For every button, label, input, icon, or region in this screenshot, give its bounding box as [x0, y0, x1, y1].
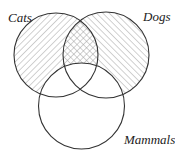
mammals-label: Mammals: [124, 133, 175, 146]
dogs-label: Dogs: [143, 10, 170, 23]
cats-label: Cats: [8, 11, 32, 24]
